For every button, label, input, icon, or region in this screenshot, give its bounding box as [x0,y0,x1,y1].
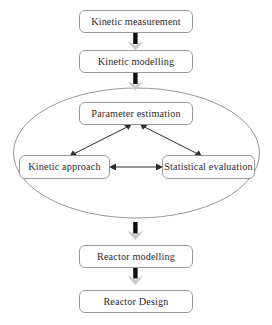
node-kinetic-modelling[interactable]: Kinetic modelling [80,51,193,73]
node-reactor-design-label: Reactor Design [103,296,168,307]
node-parameter-estimation-label: Parameter estimation [91,108,180,119]
arrow-loop-to-reactor-modelling [128,222,144,240]
node-kinetic-approach-label: Kinetic approach [28,161,100,172]
arrow-measurement-to-modelling [128,33,144,51]
node-statistical-evaluation[interactable]: Statistical evaluation [163,156,255,179]
arrow-kinetic-approach-to-statistical-evaluation [109,164,163,171]
node-reactor-modelling[interactable]: Reactor modelling [80,246,193,268]
node-kinetic-measurement[interactable]: Kinetic measurement [80,11,193,33]
diagram-canvas: Kinetic measurement Kinetic modelling Pa… [0,0,272,325]
node-kinetic-measurement-label: Kinetic measurement [91,16,181,27]
node-statistical-evaluation-label: Statistical evaluation [164,161,252,172]
node-reactor-modelling-label: Reactor modelling [97,251,175,262]
node-parameter-estimation[interactable]: Parameter estimation [80,103,193,125]
node-reactor-design[interactable]: Reactor Design [80,291,193,313]
arrow-estimation-to-statistical-evaluation [140,124,202,157]
node-kinetic-modelling-label: Kinetic modelling [98,56,174,67]
flowchart-svg: Kinetic measurement Kinetic modelling Pa… [0,0,272,325]
arrow-estimation-to-kinetic-approach [70,124,132,157]
node-kinetic-approach[interactable]: Kinetic approach [20,156,110,179]
arrow-reactor-modelling-to-design [128,267,144,285]
